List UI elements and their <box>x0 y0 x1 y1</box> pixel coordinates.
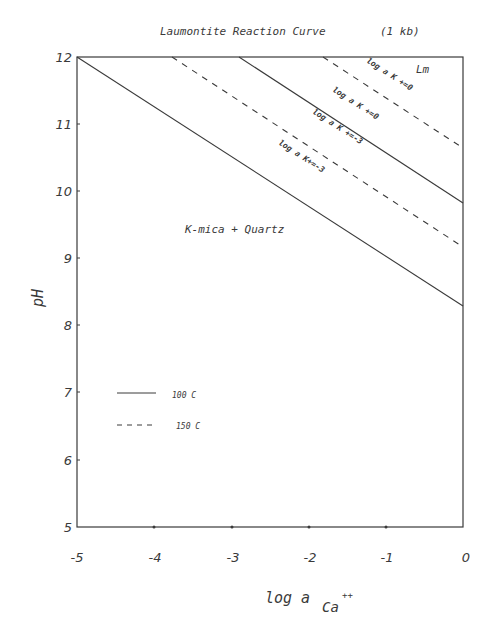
y-tick-6: 6 <box>64 453 72 468</box>
label-150c-logak-0: log a K +=0 <box>365 56 414 93</box>
region-label-lm: Lm <box>416 63 430 76</box>
y-tick-9: 9 <box>64 251 72 266</box>
x-tick-labels: -5 -4 -3 -2 -1 0 <box>71 550 471 565</box>
x-tick-minus4: -4 <box>149 550 162 565</box>
y-tick-8: 8 <box>64 318 72 333</box>
x-tick-minus2: -2 <box>304 550 317 565</box>
chart-title: Laumontite Reaction Curve <box>160 25 326 38</box>
y-tick-11: 11 <box>55 117 72 132</box>
x-axis-label: log a <box>265 589 310 607</box>
y-tick-10: 10 <box>55 184 72 199</box>
x-axis-label-superscript: ++ <box>342 590 353 600</box>
curve-100c-logak-minus3 <box>77 57 463 306</box>
y-tick-labels: 12 11 10 9 8 7 6 5 <box>55 50 72 535</box>
y-tick-7: 7 <box>64 385 73 400</box>
y-tick-5: 5 <box>64 520 72 535</box>
x-tick-minus3: -3 <box>227 550 240 565</box>
legend-100c-label: 100 C <box>172 391 196 400</box>
x-tick-minus5: -5 <box>71 550 84 565</box>
x-tick-minus1: -1 <box>381 550 394 565</box>
label-100c-logak-minus3: log a K+=-3 <box>277 138 326 175</box>
curves <box>77 57 463 306</box>
x-axis-label-subscript: Ca <box>322 599 339 615</box>
plot-frame <box>77 57 463 527</box>
y-axis-label: pH <box>29 288 47 308</box>
y-tick-12: 12 <box>55 50 72 65</box>
x-tick-0: 0 <box>462 550 470 565</box>
label-100c-logak-0: log a K +=0 <box>331 85 380 122</box>
legend: 100 C 150 C <box>117 391 200 431</box>
label-150c-logak-minus3: log a K +=-3 <box>311 107 365 146</box>
curve-150c-logak-minus3 <box>172 57 463 247</box>
chart-subtitle: (1 kb) <box>380 25 420 38</box>
legend-150c-label: 150 C <box>176 422 200 431</box>
region-label-kmica-quartz: K-mica + Quartz <box>184 223 285 236</box>
laumontite-chart: Laumontite Reaction Curve (1 kb) 12 11 1… <box>0 0 495 629</box>
